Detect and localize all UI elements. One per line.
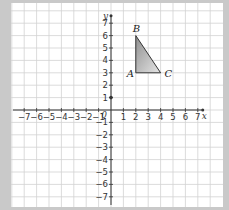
y-tick-label: 6 — [103, 31, 108, 41]
y-tick-label: −6 — [95, 179, 108, 189]
coordinate-grid-figure: ABC −7−6−5−4−3−2−112345677654321−1−2−3−4… — [0, 0, 229, 210]
x-tick-label: 1 — [121, 112, 126, 122]
x-tick-label: 4 — [158, 112, 163, 122]
y-tick-label: 4 — [103, 55, 108, 65]
y-tick-label: 2 — [103, 80, 108, 90]
y-tick-label: −7 — [95, 192, 108, 202]
y-tick-label: −4 — [95, 155, 108, 165]
y-tick-label: 5 — [103, 43, 108, 53]
x-tick-label: −7 — [18, 112, 31, 122]
y-tick-label: −2 — [95, 130, 108, 140]
vertex-label-a: A — [126, 68, 134, 79]
marked-point — [109, 96, 113, 100]
vertex-label-b: B — [132, 23, 140, 34]
x-tick-label: −3 — [68, 112, 81, 122]
origin-label: 0 — [102, 110, 108, 120]
y-tick-label: 3 — [103, 68, 108, 78]
x-tick-label: 3 — [145, 112, 150, 122]
x-tick-label: −6 — [30, 112, 43, 122]
y-tick-label: 1 — [103, 93, 108, 103]
x-tick-label: 2 — [133, 112, 138, 122]
y-axis-arrow-icon — [110, 14, 113, 17]
x-tick-label: −5 — [43, 112, 56, 122]
vertex-label-c: C — [165, 68, 173, 79]
x-axis-label: x — [202, 111, 207, 121]
y-axis-label: y — [102, 11, 109, 21]
y-tick-label: −5 — [95, 167, 108, 177]
x-tick-label: 6 — [183, 112, 188, 122]
y-tick-label: −3 — [95, 142, 108, 152]
x-tick-label: −2 — [80, 112, 93, 122]
x-tick-label: 7 — [195, 112, 200, 122]
x-tick-label: −4 — [55, 112, 68, 122]
x-tick-label: 5 — [170, 112, 175, 122]
grid-panel — [11, 3, 223, 207]
